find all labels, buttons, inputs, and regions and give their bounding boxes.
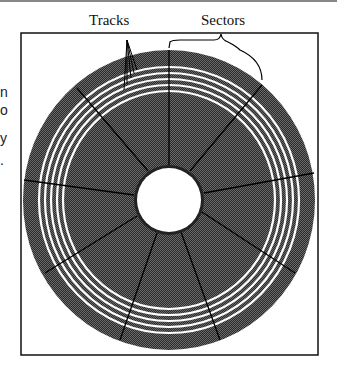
disk-diagram: [0, 0, 337, 372]
center-hole: [137, 168, 201, 232]
